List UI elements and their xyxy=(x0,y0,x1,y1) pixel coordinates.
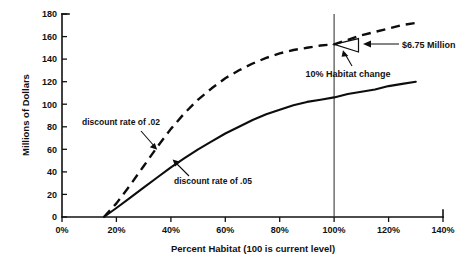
chart-canvas: 0 20 40 60 80 100 120 140 160 180 0% 20%… xyxy=(0,0,476,265)
chart-figure: 0 20 40 60 80 100 120 140 160 180 0% 20%… xyxy=(0,0,476,265)
x-tick-labels: 0% 20% 40% 60% 80% 100% 120% 140% xyxy=(55,225,454,235)
y-tick-label-80: 80 xyxy=(47,122,57,132)
y-tick-label-20: 20 xyxy=(47,190,57,200)
gap-value-label: $6.75 Million xyxy=(402,40,456,50)
habitat-change-annotation: 10% Habitat change xyxy=(305,50,390,79)
x-tick-label-140: 140% xyxy=(431,225,454,235)
x-tick-label-20: 20% xyxy=(107,225,125,235)
y-axis-title: Millions of Dollars xyxy=(20,74,31,156)
y-tick-label-0: 0 xyxy=(52,212,57,222)
x-tick-label-80: 80% xyxy=(271,225,289,235)
gap-arrow-head xyxy=(363,41,371,48)
y-tick-label-120: 120 xyxy=(42,77,57,87)
habitat-change-label: 10% Habitat change xyxy=(305,69,390,79)
gap-bracket-annotation: $6.75 Million xyxy=(334,39,455,52)
x-axis-title: Percent Habitat (100 is current level) xyxy=(171,243,335,254)
series-02-label: discount rate of .02 xyxy=(82,117,160,127)
x-tick-label-120: 120% xyxy=(377,225,400,235)
y-tick-label-140: 140 xyxy=(42,54,57,64)
y-tick-label-60: 60 xyxy=(47,145,57,155)
y-tick-label-180: 180 xyxy=(42,9,57,19)
x-tick-label-60: 60% xyxy=(216,225,234,235)
x-tick-label-100: 100% xyxy=(323,225,346,235)
y-tick-labels: 0 20 40 60 80 100 120 140 160 180 xyxy=(42,9,57,222)
y-tick-label-100: 100 xyxy=(42,100,57,110)
y-tick-label-160: 160 xyxy=(42,32,57,42)
series-line-discount-rate-05 xyxy=(104,82,416,217)
habitat-change-arrow-head xyxy=(342,50,349,57)
series-02-annotation: discount rate of .02 xyxy=(82,117,160,150)
y-tick-label-40: 40 xyxy=(47,167,57,177)
gap-bracket-shape xyxy=(334,39,358,52)
series-05-label: discount rate of .05 xyxy=(174,176,252,186)
x-tick-label-0: 0% xyxy=(55,225,68,235)
x-tick-label-40: 40% xyxy=(162,225,180,235)
series-02-arrow-head xyxy=(150,143,157,150)
series-05-annotation: discount rate of .05 xyxy=(173,160,253,186)
